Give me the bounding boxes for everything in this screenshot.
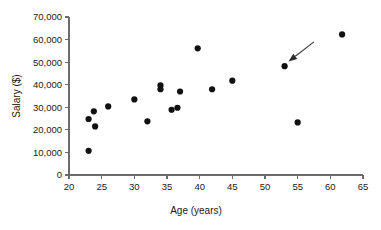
data-points-layer [86,31,346,154]
data-point [174,105,180,111]
scatter-plot-figure: 010,00020,00030,00040,00050,00060,00070,… [0,0,381,230]
y-axis-ticks: 010,00020,00030,00040,00050,00060,00070,… [33,11,69,180]
x-tick-label: 35 [162,181,173,192]
y-tick-label: 60,000 [33,34,62,45]
annotation-arrow-head [289,54,298,62]
data-point [168,107,174,113]
data-point [295,119,301,125]
x-tick-label: 30 [129,181,140,192]
y-tick-label: 10,000 [33,147,62,158]
data-point [282,63,288,69]
data-point [209,86,215,92]
x-tick-label: 45 [227,181,238,192]
x-axis-ticks: 20253035404550556065 [64,175,369,192]
x-tick-label: 50 [260,181,271,192]
data-point [157,86,163,92]
y-tick-label: 20,000 [33,124,62,135]
data-point [86,148,92,154]
x-axis-title: Age (years) [170,205,222,216]
data-point [86,116,92,122]
data-point [131,96,137,102]
x-tick-label: 60 [325,181,336,192]
data-point [105,103,111,109]
data-point [339,31,345,37]
x-tick-label: 40 [194,181,205,192]
data-point [195,45,201,51]
y-axis-title: Salary ($) [11,74,22,117]
data-point [92,123,98,129]
y-tick-label: 40,000 [33,79,62,90]
y-tick-label: 70,000 [33,11,62,22]
data-point [144,118,150,124]
y-tick-label: 30,000 [33,102,62,113]
plot-svg: 010,00020,00030,00040,00050,00060,00070,… [0,0,381,230]
x-tick-label: 65 [358,181,369,192]
data-point [229,78,235,84]
x-tick-label: 20 [64,181,75,192]
annotation-arrow-shaft [295,42,314,56]
y-tick-label: 50,000 [33,57,62,68]
y-tick-label: 0 [57,169,62,180]
data-point [91,108,97,114]
axes-group [69,17,363,175]
x-tick-label: 25 [96,181,107,192]
annotations-layer [289,42,314,62]
data-point [177,88,183,94]
x-tick-label: 55 [292,181,303,192]
